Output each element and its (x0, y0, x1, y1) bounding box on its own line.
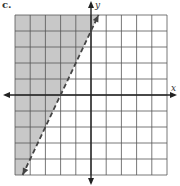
coordinate-plane: x y (0, 0, 180, 186)
x-axis-label: x (171, 83, 176, 93)
y-axis-label: y (94, 0, 101, 10)
